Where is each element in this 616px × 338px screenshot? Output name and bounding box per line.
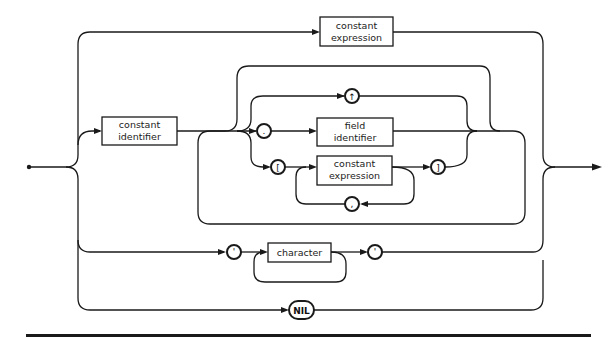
exit-arrow-icon xyxy=(592,164,602,171)
path-top-exit xyxy=(393,32,592,167)
syntax-diagram: constant expression constant identifier … xyxy=(0,0,616,338)
svg-text:': ' xyxy=(374,247,376,257)
label: field xyxy=(345,120,366,131)
svg-text:': ' xyxy=(233,247,235,257)
label: expression xyxy=(329,170,380,181)
label: constant xyxy=(336,20,378,31)
svg-text:[: [ xyxy=(276,163,280,173)
label: expression xyxy=(331,32,382,43)
bottom-rule xyxy=(26,334,591,337)
svg-text:,: , xyxy=(351,199,354,209)
label: constant xyxy=(119,119,161,130)
path-to-const-id xyxy=(78,131,100,145)
svg-text:.: . xyxy=(263,126,266,136)
path-bottom-branch xyxy=(66,167,282,310)
path-to-string xyxy=(78,240,224,252)
svg-text:]: ] xyxy=(436,163,440,173)
label: constant xyxy=(334,158,376,169)
svg-text:NIL: NIL xyxy=(293,306,310,316)
label: identifier xyxy=(118,131,161,142)
label: identifier xyxy=(334,132,377,143)
svg-text:↑: ↑ xyxy=(348,92,356,102)
path-top-branch xyxy=(29,32,312,167)
label: character xyxy=(277,247,323,258)
